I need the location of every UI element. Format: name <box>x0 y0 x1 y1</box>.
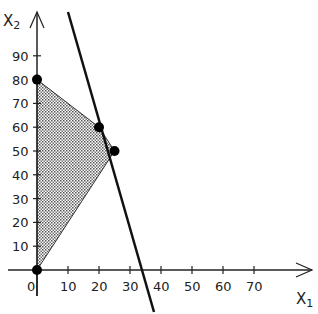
x-tick-label: 20 <box>91 279 108 294</box>
vertex-point <box>32 265 42 275</box>
y-tick-label: 80 <box>12 73 29 88</box>
x-tick-label: 70 <box>246 279 263 294</box>
vertex-point <box>32 75 42 85</box>
feasible-region <box>37 80 115 270</box>
y-tick-label: 30 <box>12 192 29 207</box>
y-tick-label: 20 <box>12 215 29 230</box>
feasible-region-chart: 010203040506070102030405060708090 X2 X1 <box>0 0 318 314</box>
x-axis-label: X1 <box>296 290 313 310</box>
vertex-point <box>110 146 120 156</box>
y-tick-label: 70 <box>12 96 29 111</box>
feasible-region-polygon <box>37 80 115 270</box>
y-tick-label: 60 <box>12 120 29 135</box>
x-tick-label: 50 <box>184 279 201 294</box>
vertex-point <box>94 122 104 132</box>
y-tick-label: 40 <box>12 168 29 183</box>
x-tick-label: 30 <box>122 279 139 294</box>
x-tick-label: 0 <box>27 279 35 294</box>
x-tick-label: 40 <box>153 279 170 294</box>
x-tick-label: 10 <box>60 279 77 294</box>
x-tick-label: 60 <box>215 279 232 294</box>
y-tick-label: 10 <box>12 239 29 254</box>
y-tick-label: 50 <box>12 144 29 159</box>
y-tick-label: 90 <box>12 49 29 64</box>
y-axis-label: X2 <box>3 12 20 32</box>
